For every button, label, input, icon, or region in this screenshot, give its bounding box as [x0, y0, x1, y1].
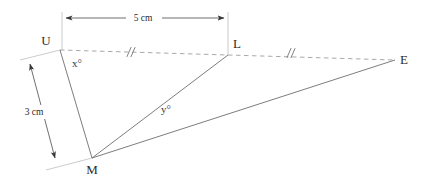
geometry-diagram: 5 cm 3 cm [0, 0, 423, 181]
geometry-canvas: 5 cm 3 cm [0, 0, 423, 181]
tick-stroke-1 [287, 48, 291, 58]
segment-l-e [228, 55, 395, 60]
extension-line-u-left [20, 50, 60, 60]
angle-label-x: x° [72, 57, 82, 69]
dimension-3cm: 3 cm [16, 64, 55, 158]
extension-line-m-left [46, 158, 92, 170]
dimension-label-3cm: 3 cm [25, 107, 44, 117]
angle-label-y: y° [161, 103, 171, 115]
dimension-label-5cm: 5 cm [134, 13, 153, 23]
dimension-5cm: 5 cm [66, 11, 224, 25]
segment-l-m [92, 55, 228, 158]
vertex-label-u: U [41, 33, 51, 48]
segment-u-l [60, 50, 228, 55]
vertex-label-e: E [400, 52, 408, 67]
vertex-label-l: L [233, 36, 241, 51]
solid-segments [60, 50, 395, 158]
segment-e-m [92, 60, 395, 158]
vertex-label-m: M [86, 162, 98, 177]
